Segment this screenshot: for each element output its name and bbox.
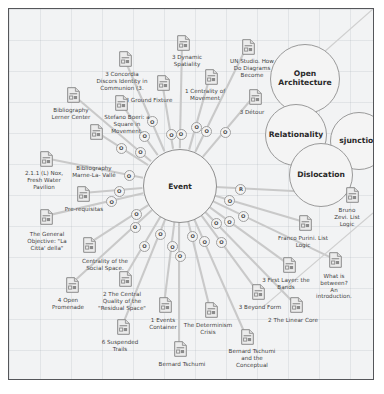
document-label: 1 Events Container [149, 317, 177, 331]
document-icon[interactable] [249, 89, 262, 105]
document-label: Stefano Boeri: a Square in Movement. [104, 114, 149, 134]
diagram-frame: OOOOOOOOOOOOOOOOOOOOOOOOOR Event Open Ar… [8, 8, 374, 380]
relation-node-label: O [127, 173, 131, 179]
relation-node-o[interactable]: O [187, 231, 198, 242]
document-label: 3 Concordia Discors Identity in Communio… [97, 71, 148, 91]
relation-node-r[interactable]: R [235, 184, 246, 195]
relation-node-o[interactable]: O [220, 127, 231, 138]
document-icon[interactable] [174, 341, 187, 357]
document-label: What is between? An introduction. [315, 273, 354, 300]
relation-node-label: O [223, 129, 227, 135]
relation-node-o[interactable]: O [167, 241, 178, 252]
document-label: 3 Dynamic Spatiality [172, 54, 202, 68]
relation-node-o[interactable]: O [199, 236, 210, 247]
relation-node-label: O [158, 231, 162, 237]
document-label: 1 Centrality of Movement [185, 88, 225, 102]
relation-node-o[interactable]: O [176, 129, 187, 140]
document-icon[interactable] [67, 87, 80, 103]
relation-node-o[interactable]: O [224, 195, 235, 206]
relation-node-label: O [227, 219, 231, 225]
document-label: Pre-requisitas [65, 206, 103, 213]
relation-node-o[interactable]: O [114, 186, 125, 197]
document-label: 4 Open Promenade [52, 297, 84, 311]
cluster-label: Relationality [269, 131, 324, 140]
document-icon[interactable] [40, 209, 53, 225]
document-icon[interactable] [290, 297, 303, 313]
document-label: Bernard Tschumi [159, 361, 206, 368]
center-node-label: Event [168, 182, 192, 191]
relation-node-o[interactable]: O [116, 143, 127, 154]
relation-node-o[interactable]: O [130, 222, 141, 233]
document-icon[interactable] [119, 271, 132, 287]
document-icon[interactable] [115, 95, 128, 111]
document-icon[interactable] [205, 69, 218, 85]
relation-node-o[interactable]: O [131, 209, 142, 220]
document-icon[interactable] [242, 39, 255, 55]
relation-node-label: O [179, 131, 183, 137]
relation-node-label: O [205, 128, 209, 134]
relation-node-label: O [119, 145, 123, 151]
relation-node-label: O [142, 243, 146, 249]
diagram-screenshot: OOOOOOOOOOOOOOOOOOOOOOOOOR Event Open Ar… [0, 0, 384, 394]
document-label: The General Objective: "La Citta' della" [27, 231, 67, 251]
relation-node-o[interactable]: O [106, 196, 117, 207]
relation-node-o[interactable]: O [201, 126, 212, 137]
relation-node-label: R [239, 186, 243, 192]
document-icon[interactable] [283, 257, 296, 273]
document-label: 2 The Linear Core [268, 317, 318, 324]
document-label: Franco Purini. List Logic [278, 235, 328, 249]
cluster-circle-dislocation[interactable]: Dislocation [289, 143, 353, 207]
document-icon[interactable] [157, 75, 170, 91]
relation-node-o[interactable]: O [175, 251, 186, 262]
relation-node-label: O [228, 198, 232, 204]
document-label: 3 Détour [240, 109, 265, 116]
document-icon[interactable] [90, 124, 103, 140]
document-icon[interactable] [241, 329, 254, 345]
document-label: 3 First Layer: the Bands [262, 277, 310, 291]
relation-node-o[interactable]: O [166, 129, 177, 140]
document-icon[interactable] [66, 277, 79, 293]
document-icon[interactable] [83, 237, 96, 253]
document-icon[interactable] [299, 215, 312, 231]
relation-node-label: O [134, 211, 138, 217]
relation-node-o[interactable]: O [124, 170, 135, 181]
document-icon[interactable] [40, 151, 53, 167]
cluster-label: Dislocation [297, 171, 345, 180]
relation-node-label: O [138, 149, 142, 155]
relation-node-label: O [190, 233, 194, 239]
relation-node-label: O [241, 213, 245, 219]
relation-node-o[interactable]: O [224, 216, 235, 227]
document-icon[interactable] [159, 297, 172, 313]
document-icon[interactable] [205, 302, 218, 318]
relation-node-o[interactable]: O [191, 122, 202, 133]
relation-node-label: O [169, 132, 173, 138]
document-label: 2.1.1 (L) Nox, Fresh Water Pavilion [25, 170, 63, 190]
document-icon[interactable] [117, 319, 130, 335]
document-icon[interactable] [119, 51, 132, 67]
document-label: 6 Suspended Trails [102, 339, 139, 353]
document-label: Bernard Tschumi and the Conceptual [229, 348, 276, 368]
relation-node-o[interactable]: O [155, 229, 166, 240]
document-label: Bibliography Marne-La- Vallé [72, 165, 115, 179]
document-icon[interactable] [329, 252, 342, 268]
relation-node-label: O [133, 224, 137, 230]
document-label: UN Studio. How Do Diagrams Become [230, 58, 274, 78]
relation-node-o[interactable]: O [216, 237, 227, 248]
cluster-circle-open-architecture[interactable]: Open Architecture [270, 44, 340, 114]
relation-node-label: O [219, 239, 223, 245]
document-label: 2 The Central Quality of the "Residual S… [98, 291, 146, 311]
document-icon[interactable] [77, 186, 90, 202]
relation-node-label: O [178, 253, 182, 259]
document-label: The Determinism Crisis [184, 322, 233, 336]
relation-node-o[interactable]: O [238, 211, 249, 222]
document-icon[interactable] [177, 35, 190, 51]
center-node-event[interactable]: Event [143, 149, 217, 223]
document-label: 3 Beyond Form [239, 304, 282, 311]
diagram-stage: OOOOOOOOOOOOOOOOOOOOOOOOOR Event Open Ar… [9, 9, 373, 379]
relation-node-label: O [150, 119, 154, 125]
relation-node-o[interactable]: O [139, 241, 150, 252]
relation-node-o[interactable]: O [211, 218, 222, 229]
relation-node-o[interactable]: O [135, 147, 146, 158]
document-icon[interactable] [346, 187, 359, 203]
relation-node-label: O [214, 220, 218, 226]
